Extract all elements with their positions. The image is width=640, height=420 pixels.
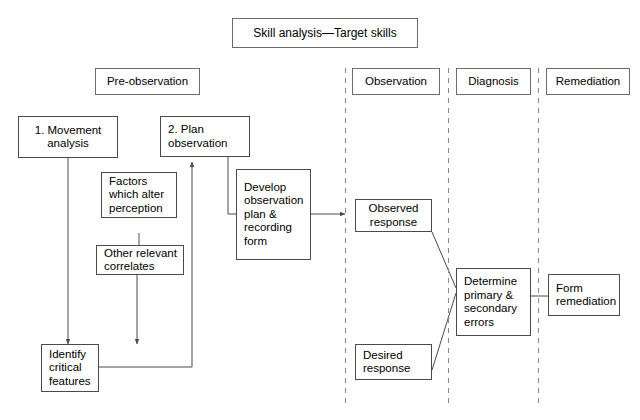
wire-observed-to-determine bbox=[432, 232, 456, 288]
node-determine-errors[interactable]: Determine primary & secondary errors bbox=[456, 268, 531, 336]
phase-header-diagnosis: Diagnosis bbox=[456, 68, 531, 95]
node-other-relevant-correlates[interactable]: Other relevant correlates bbox=[96, 245, 184, 275]
title-box: Skill analysis—Target skills bbox=[232, 18, 418, 48]
wire-plan-to-develop bbox=[228, 157, 236, 214]
node-observed-response[interactable]: Observed response bbox=[355, 199, 432, 232]
node-identify-critical-features[interactable]: Identify critical features bbox=[41, 344, 99, 392]
wire-desired-to-determine bbox=[432, 293, 456, 370]
node-desired-response[interactable]: Desired response bbox=[355, 344, 432, 380]
flowchart-canvas: Skill analysis—Target skills Pre-observa… bbox=[0, 0, 640, 420]
phase-header-observation: Observation bbox=[352, 68, 440, 95]
node-plan-observation[interactable]: 2. Plan observation bbox=[160, 116, 250, 157]
node-form-remediation[interactable]: Form remediation bbox=[548, 274, 620, 316]
node-movement-analysis[interactable]: 1. Movement analysis bbox=[18, 116, 118, 158]
node-develop-observation-plan[interactable]: Develop observation plan & recording for… bbox=[236, 169, 311, 260]
phase-header-pre-observation: Pre-observation bbox=[95, 68, 200, 95]
node-factors-alter-perception[interactable]: Factors which alter perception bbox=[101, 172, 177, 218]
phase-header-remediation: Remediation bbox=[546, 68, 630, 95]
